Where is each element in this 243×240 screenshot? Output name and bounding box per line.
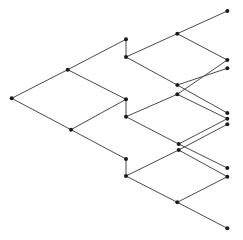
edge-root-l1-bot [12, 98, 71, 129]
edge-l3-3-l4-5 [177, 94, 227, 118]
edge-l3-4-l4-5 [179, 119, 228, 144]
node-l3-4 [177, 142, 181, 146]
node-l4-7 [225, 166, 229, 170]
tree-diagram [0, 0, 243, 240]
edge-root-l1-top [12, 70, 68, 99]
edge-l2-c-bot-l3-6 [126, 176, 177, 202]
node-root [10, 96, 14, 100]
node-l4-3 [225, 66, 229, 70]
node-l2-c-top [124, 157, 128, 161]
edge-l3-1-l4-2 [177, 34, 227, 60]
edge-l2-c-bot-l3-5 [126, 150, 179, 176]
edge-l1-top-l2-a-top [68, 39, 126, 69]
edge-layer [12, 11, 228, 228]
node-l4-5 [225, 117, 229, 121]
edge-l1-bot-l2-b-top [71, 99, 126, 129]
edge-l2-b-bot-l3-4 [126, 117, 179, 144]
edge-l3-6-l4-9 [177, 202, 227, 228]
edge-l3-5-l4-6 [179, 124, 228, 150]
node-l3-3 [175, 92, 179, 96]
edge-l1-bot-l2-c-top [71, 130, 126, 159]
edge-l3-4-l4-7 [179, 144, 228, 168]
node-l1-bot [69, 128, 73, 132]
edge-l3-5-l4-8 [179, 150, 228, 177]
node-l2-a-bot [124, 55, 128, 59]
node-l2-a-top [124, 37, 128, 41]
edge-l2-a-bot-l3-2 [126, 57, 177, 85]
node-l4-2 [225, 58, 229, 62]
node-l2-b-bot [124, 115, 128, 119]
edge-l3-1-l4-1 [177, 11, 227, 34]
node-l2-b-top [124, 97, 128, 101]
node-l3-2 [175, 83, 179, 87]
edge-l3-6-l4-8 [177, 177, 227, 203]
node-l4-4 [225, 111, 229, 115]
node-l3-1 [175, 32, 179, 36]
node-l3-5 [177, 148, 181, 152]
edge-l1-top-l2-b-top [68, 70, 126, 100]
node-l3-6 [175, 200, 179, 204]
edge-l3-3-l4-2 [177, 60, 227, 94]
edge-l2-a-bot-l3-1 [126, 34, 177, 57]
node-l4-6 [225, 122, 229, 126]
node-l4-9 [225, 226, 229, 230]
node-l2-c-bot [124, 174, 128, 178]
node-l4-1 [225, 9, 229, 13]
edge-l2-b-bot-l3-3 [126, 94, 177, 116]
node-l4-8 [225, 175, 229, 179]
node-l1-top [66, 68, 70, 72]
